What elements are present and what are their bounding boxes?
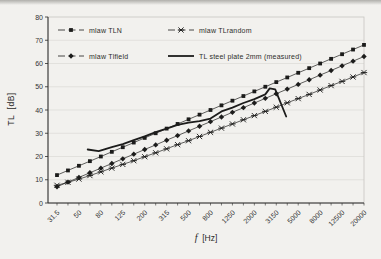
marker-square [121,145,125,149]
x-tick-label: 200 [135,209,148,222]
marker-diamond [263,96,268,101]
marker-square [329,57,333,61]
marker-square [340,52,344,56]
y-tick-label: 0 [39,200,43,207]
marker-diamond [219,114,224,119]
y-tick-label: 70 [35,37,43,44]
x-tick-label: 315 [157,209,170,222]
marker-square [69,28,73,32]
legend-marker-asterisk-icon [168,21,194,39]
marker-square [318,62,322,66]
marker-square [55,173,59,177]
marker-square [231,99,235,103]
marker-square [77,164,81,168]
x-tick-label: 800 [201,209,214,222]
marker-square [88,159,92,163]
marker-square [362,43,366,47]
marker-diamond [120,156,125,161]
marker-diamond [131,151,136,156]
marker-square [285,76,289,80]
marker-square [252,90,256,94]
marker-diamond [350,58,355,63]
marker-diamond [186,128,191,133]
legend-marker-diamond-icon [58,47,84,65]
marker-diamond [339,63,344,68]
y-axis-title: TL [dB] [6,69,16,149]
marker-square [274,80,278,84]
marker-square [220,103,224,107]
legend-swatch [168,25,194,35]
x-tick-label: 20000 [349,209,368,228]
y-tick-label: 40 [35,107,43,114]
marker-diamond [241,105,246,110]
legend-label-steel-measured: TL steel plate 2mm (measured) [199,53,302,60]
legend-swatch [58,51,84,61]
x-tick-label: 8000 [308,209,324,225]
marker-square [198,113,202,117]
marker-diamond [296,82,301,87]
marker-square [66,169,70,173]
marker-diamond [317,72,322,77]
legend-label-tlfield: mlaw Tlfield [89,53,128,60]
marker-square [99,155,103,159]
marker-square [187,117,191,121]
x-tick-label: 80 [94,209,105,220]
marker-square [110,150,114,154]
x-tick-label: 5000 [286,209,302,225]
legend-item-steel-measured: TL steel plate 2mm (measured) [168,47,302,65]
marker-diamond [285,86,290,91]
marker-square [307,66,311,70]
marker-square [241,94,245,98]
x-axis-title: f [Hz] [166,232,246,243]
x-tick-label: 31.5 [46,209,61,224]
legend-label-tln: mlaw TLN [89,27,122,34]
x-tick-label: 12500 [327,209,346,228]
chart-figure: 0102030405060708031.55080125200315500800… [0,0,381,259]
x-tick-label: 500 [179,209,192,222]
marker-diamond [197,124,202,129]
legend-label-tlrandom: mlaw TLrandom [199,27,252,34]
legend-item-tlrandom: mlaw TLrandom [168,21,302,39]
marker-square [296,71,300,75]
marker-diamond [252,100,257,105]
legend-swatch [58,25,84,35]
x-tick-label: 50 [72,209,83,220]
y-tick-label: 80 [35,14,43,21]
legend-swatch [168,51,194,61]
x-tick-label: 125 [113,209,126,222]
marker-diamond [164,138,169,143]
x-tick-label: 1250 [220,209,236,225]
marker-diamond [68,53,73,58]
marker-square [209,108,213,112]
marker-square [351,48,355,52]
marker-diamond [153,142,158,147]
x-axis-unit: [Hz] [197,233,217,243]
x-tick-label: 3150 [264,209,280,225]
marker-diamond [328,68,333,73]
legend-item-tlfield: mlaw Tlfield [58,47,168,65]
legend-item-tln: mlaw TLN [58,21,168,39]
marker-diamond [142,147,147,152]
marker-square [263,85,267,89]
legend-marker-square-icon [58,21,84,39]
y-tick-label: 30 [35,130,43,137]
x-tick-label: 2000 [242,209,258,225]
y-tick-label: 20 [35,153,43,160]
y-tick-label: 50 [35,83,43,90]
y-tick-label: 60 [35,60,43,67]
marker-diamond [230,110,235,115]
marker-diamond [306,77,311,82]
marker-diamond [109,161,114,166]
marker-diamond [361,54,366,59]
legend: mlaw TLN mlaw TLrandom mlaw Tlfield TL s… [58,21,302,65]
marker-diamond [175,133,180,138]
y-tick-label: 10 [35,176,43,183]
legend-marker-solid-line-icon [168,47,194,65]
